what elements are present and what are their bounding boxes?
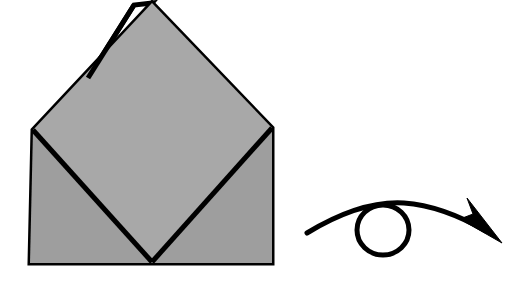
origami-diagram-canvas: Origami diagram showing a gray folded pa… [0, 0, 524, 290]
